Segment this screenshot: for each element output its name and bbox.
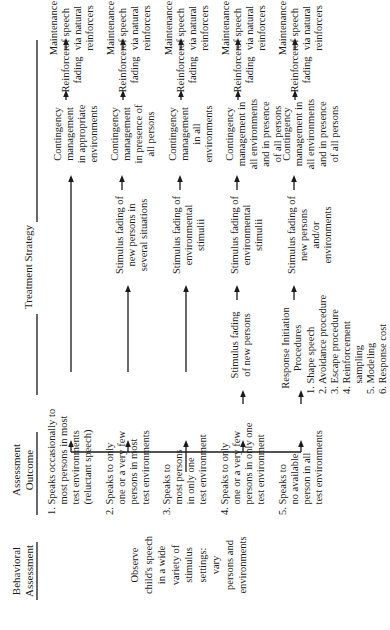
response-initiation-title: Response Initiation Procedures [280,298,304,398]
row4-to-stimulus-persons-arrowhead-icon [240,390,246,397]
row1-to-contingency-arrowhead-icon [68,175,74,182]
contingency-management-5: Contingency management in all environmen… [281,93,341,175]
stimulus-fading-row5: Stimulus fading of new persons and/or en… [286,185,334,285]
outcome-4: 4. Speaks to only one or a very few pers… [219,423,267,515]
stimulus-fading-row3: Stimulus fading of environmental stimuli… [171,185,207,285]
treatment-strategy-header: Treatment Strategy [22,222,35,312]
row3-to-stimulus-arrowhead-icon [183,285,189,292]
row4-to-contingency-arrowhead-icon [234,175,240,182]
maintenance-1: Maintenance of speech via natural reinfo… [48,0,96,58]
row2-to-stimulus-arrowhead-icon [125,285,131,292]
row5-to-contingency-arrowhead-icon [291,175,297,182]
response-initiation-item: 5. Modeling [365,343,377,394]
contingency-management-4: Contingency management in all environmen… [224,93,284,175]
behavioral-assessment-header: Behavioral Assessment [10,540,35,602]
maintenance-3: Maintenance of speech via natural reinfo… [163,0,211,58]
row4-to-stimulus-env-arrowhead-icon [234,285,240,292]
maintenance-5: Maintenance of speech via natural reinfo… [277,0,325,58]
assessment-outcome-header: Assessment Outcome [10,435,35,505]
response-initiation-item: 2. Avoidance procedure [317,295,329,394]
stimulus-fading-new-persons-row4: Stimulus fading of new persons [229,300,253,390]
response-initiation-item: 6. Response cost [377,324,389,394]
outcome-1: 1. Speaks occasionally to most persons i… [46,409,94,515]
row5-to-stimulus-arrowhead-icon [291,285,297,292]
maintenance-2: Maintenance of speech via natural reinfo… [105,0,153,58]
behavioral-assessment-text: Observe child's speech in a wide variety… [128,520,250,610]
stimulus-fading-row4: Stimulus fading of environmental stimuli… [229,185,265,285]
response-initiation-item: 4. Reinforcement sampling [341,321,365,394]
contingency-management-1: Contingency management in appropriate en… [52,93,100,175]
row2-to-contingency-arrowhead-icon [119,175,125,182]
outcome-3: 3. Speaks to most persons in only one te… [161,434,209,515]
contingency-management-3: Contingency management in all environmen… [167,93,215,175]
row3-to-contingency-arrowhead-icon [177,175,183,182]
outcome-2: 2. Speaks to only one or a very few pers… [104,430,152,515]
maintenance-4: Maintenance of speech via natural reinfo… [220,0,268,58]
response-initiation-item: 1. Shape speech [305,327,317,394]
stimulus-fading-row2: Stimulus fading of new persons in severa… [114,185,150,285]
response-initiation-item: 3. Escape procedure [329,309,341,394]
treatment-flowchart: Behavioral Assessment Assessment Outcome… [0,0,390,630]
outcome-5: 5. Speaks to no available person in all … [277,430,325,515]
contingency-management-2: Contingency management in presence of al… [109,93,157,175]
